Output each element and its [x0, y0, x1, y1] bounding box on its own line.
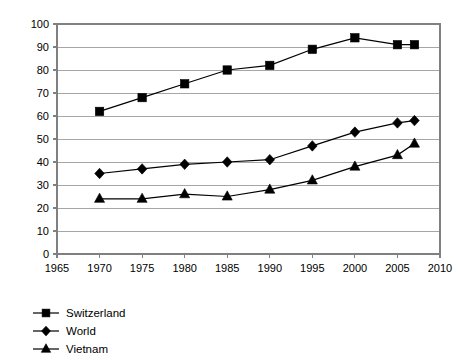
x-tick-label-1965: 1965	[45, 262, 69, 274]
datapoint-switzerland-1985	[223, 66, 231, 74]
y-tick-label-80: 80	[37, 64, 49, 76]
datapoint-world-2000	[350, 127, 360, 138]
x-tick-label-1990: 1990	[258, 262, 282, 274]
datapoint-switzerland-1970	[95, 107, 103, 115]
series-line-vietnam	[100, 144, 415, 199]
datapoint-switzerland-2005	[393, 41, 401, 49]
datapoint-switzerland-2007	[410, 41, 418, 49]
y-axis-tick-labels: 0102030405060708090100	[31, 18, 49, 260]
x-tick-label-1975: 1975	[130, 262, 154, 274]
legend-marker-world	[42, 326, 51, 336]
series-line-switzerland	[100, 38, 415, 112]
x-tick-label-1985: 1985	[215, 262, 239, 274]
datapoint-world-2007	[410, 115, 420, 126]
datapoint-world-1980	[180, 159, 190, 170]
datapoint-world-1970	[95, 168, 105, 179]
legend-marker-switzerland	[42, 309, 50, 317]
legend-marker-vietnam	[41, 344, 50, 353]
datapoint-world-1975	[137, 164, 147, 175]
x-tick-label-1995: 1995	[300, 262, 324, 274]
y-tick-label-70: 70	[37, 87, 49, 99]
datapoint-world-1990	[265, 154, 275, 165]
y-tick-label-10: 10	[37, 225, 49, 237]
y-tick-label-40: 40	[37, 156, 49, 168]
x-tick-label-2010: 2010	[428, 262, 452, 274]
datapoint-switzerland-2000	[351, 34, 359, 42]
x-axis-tick-labels: 1965197019751980198519901995200020052010	[45, 262, 452, 274]
x-tick-label-1980: 1980	[172, 262, 196, 274]
datapoint-world-1985	[222, 157, 232, 168]
y-tick-label-60: 60	[37, 110, 49, 122]
legend-label-world: World	[66, 325, 96, 337]
y-tick-label-0: 0	[43, 248, 49, 260]
datapoint-vietnam-2005	[392, 149, 402, 158]
series-switzerland	[95, 34, 418, 116]
data-series-group	[95, 34, 420, 203]
legend-item-switzerland[interactable]: Switzerland	[33, 307, 125, 319]
y-tick-label-20: 20	[37, 202, 49, 214]
gridlines	[57, 24, 440, 231]
y-axis-ticks	[53, 24, 57, 254]
y-tick-label-50: 50	[37, 133, 49, 145]
datapoint-switzerland-1995	[308, 45, 316, 53]
datapoint-vietnam-1980	[180, 189, 190, 198]
legend-item-vietnam[interactable]: Vietnam	[33, 343, 108, 355]
legend-label-vietnam: Vietnam	[66, 343, 108, 355]
datapoint-switzerland-1975	[138, 93, 146, 101]
datapoint-world-2005	[393, 118, 403, 128]
series-world	[95, 115, 420, 178]
datapoint-world-1995	[308, 141, 318, 152]
series-line-world	[100, 121, 415, 174]
legend-label-switzerland: Switzerland	[66, 307, 125, 319]
legend-item-world[interactable]: World	[33, 325, 96, 337]
y-tick-label-100: 100	[31, 18, 49, 30]
datapoint-switzerland-1980	[180, 80, 188, 88]
datapoint-switzerland-1990	[266, 61, 274, 69]
y-tick-label-90: 90	[37, 41, 49, 53]
chart-legend: SwitzerlandWorldVietnam	[33, 307, 125, 355]
datapoint-vietnam-1970	[95, 193, 105, 202]
line-chart: 0102030405060708090100 19651970197519801…	[0, 0, 461, 363]
y-tick-label-30: 30	[37, 179, 49, 191]
x-tick-label-1970: 1970	[87, 262, 111, 274]
x-tick-label-2000: 2000	[343, 262, 367, 274]
chart-canvas: 0102030405060708090100 19651970197519801…	[0, 0, 461, 363]
x-tick-label-2005: 2005	[385, 262, 409, 274]
x-axis-ticks	[57, 254, 440, 258]
datapoint-vietnam-1975	[137, 193, 147, 202]
